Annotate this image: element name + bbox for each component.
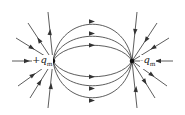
field-arc-bottom-1 [53,61,132,77]
label-subscript: m [150,60,156,67]
field-arc-bottom-2 [53,61,132,86]
positive-pole-label: +qm [32,55,53,69]
field-lines-diagram [0,0,185,115]
field-arc-top-2 [53,36,132,61]
negative-pole-label: -qm [140,55,156,69]
field-arc-bottom-3 [53,61,132,98]
negative-pole-dot [130,59,135,64]
field-arc-top-1 [53,24,132,61]
field-arc-top-3 [53,45,132,61]
label-subscript: m [47,60,53,67]
